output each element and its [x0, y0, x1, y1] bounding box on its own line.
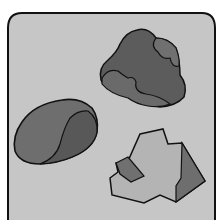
illustration — [0, 0, 222, 220]
